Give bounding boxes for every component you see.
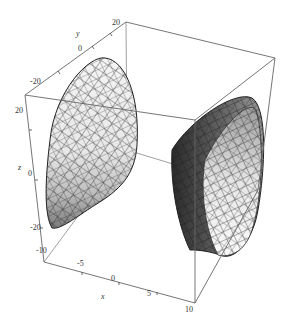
svg-text:20: 20 [15, 106, 23, 115]
plot-canvas: -20 0 20 y 20 0 -20 z -10 -5 0 5 10 x [0, 0, 290, 332]
plot-3d: -20 0 20 y 20 0 -20 z -10 -5 0 5 10 x [0, 0, 290, 332]
surface-left-sheet [46, 58, 137, 228]
surface-right-sheet [172, 97, 264, 257]
z-axis-tick-labels: 20 0 -20 z [15, 106, 41, 232]
svg-text:-20: -20 [30, 223, 41, 232]
svg-text:0: 0 [111, 274, 115, 283]
svg-text:0: 0 [28, 169, 32, 178]
x-axis-tick-labels: -10 -5 0 5 10 x [36, 246, 193, 314]
svg-text:20: 20 [112, 18, 120, 27]
y-axis-label: y [75, 29, 80, 38]
svg-text:-10: -10 [36, 246, 47, 255]
x-axis-label: x [100, 292, 105, 301]
z-axis-label: z [17, 163, 22, 172]
svg-text:5: 5 [147, 289, 151, 298]
svg-text:0: 0 [78, 44, 82, 53]
svg-text:-5: -5 [77, 259, 84, 268]
svg-text:10: 10 [185, 305, 193, 314]
svg-text:-20: -20 [30, 77, 41, 86]
